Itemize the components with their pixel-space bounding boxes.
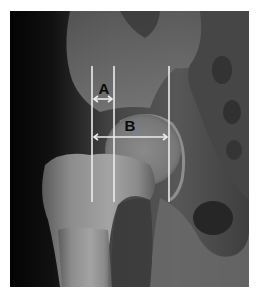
obturator-foramen [193, 201, 233, 235]
label-a: A [99, 80, 110, 97]
foramen-2 [223, 100, 241, 124]
hip-xray-image: A B [10, 11, 249, 287]
foramen-3 [226, 140, 242, 160]
femoral-shaft [58, 228, 112, 288]
label-b: B [125, 117, 136, 134]
foramen-1 [212, 56, 232, 84]
figure-canvas: A B [0, 0, 260, 294]
medial-soft-tissue [112, 198, 153, 287]
xray-svg: A B [10, 11, 249, 287]
